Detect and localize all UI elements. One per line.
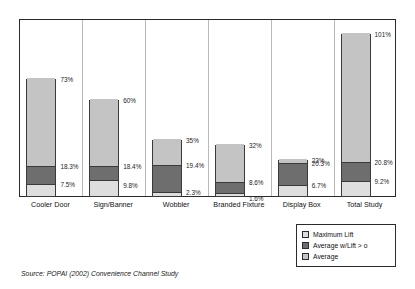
plot-area: 73%18.3%7.5%60%18.4%9.8%35%19.4%2.3%32%8… xyxy=(19,19,396,197)
bar-segment-average xyxy=(27,184,55,196)
bar-segment-maximum-lift xyxy=(27,78,55,167)
bar-value-label-average: 7.5% xyxy=(60,181,75,188)
bar-value-label-average: 9.8% xyxy=(123,182,138,189)
x-axis-tick-label: Total Study xyxy=(333,200,396,210)
x-axis-labels: Cooler DoorSign/BannerWobblerBranded Fix… xyxy=(19,200,396,216)
legend-item-average: Average xyxy=(302,251,390,262)
x-axis-tick-label: Branded Fixture xyxy=(208,200,271,210)
bar-value-label-average: 9.2% xyxy=(375,178,390,185)
legend-swatch-icon xyxy=(302,231,309,238)
x-axis-tick-label: Display Box xyxy=(270,200,333,210)
bar-segment-average-w-lift xyxy=(342,162,370,181)
bar-group: 23%20.3%6.7% xyxy=(270,19,333,197)
chart-figure: 73%18.3%7.5%60%18.4%9.8%35%19.4%2.3%32%8… xyxy=(0,0,415,289)
bar-value-label-maximum-lift: 60% xyxy=(123,97,136,104)
bar-value-label-average-w-lift: 20.3% xyxy=(312,160,330,167)
bar-segment-average xyxy=(216,193,244,196)
legend-label: Average w/Lift > o xyxy=(313,241,367,250)
legend-label: Average xyxy=(313,252,338,261)
chart-legend: Maximum Lift Average w/Lift > o Average xyxy=(296,224,396,267)
bar-segment-maximum-lift xyxy=(342,33,370,163)
source-caption: Source: POPAI (2002) Convenience Channel… xyxy=(21,270,178,277)
bar xyxy=(215,145,245,197)
bar xyxy=(152,140,182,197)
bar-segment-average-w-lift xyxy=(90,166,118,180)
legend-item-maximum-lift: Maximum Lift xyxy=(302,229,390,240)
bar-value-label-average: 2.3% xyxy=(186,189,201,196)
legend-swatch-icon xyxy=(302,242,309,249)
bar-value-label-average-w-lift: 20.8% xyxy=(375,159,393,166)
bar-group: 32%8.6%1.6% xyxy=(208,19,271,197)
x-axis-tick-label: Sign/Banner xyxy=(82,200,145,210)
bar-segment-average-w-lift xyxy=(216,182,244,193)
bar-segment-average-w-lift xyxy=(153,165,181,193)
bar xyxy=(89,100,119,197)
bar-segment-average xyxy=(153,192,181,196)
legend-swatch-icon xyxy=(302,253,309,260)
bar-value-label-average-w-lift: 8.6% xyxy=(249,179,264,186)
bar-segment-average xyxy=(90,180,118,196)
bar-segment-average-w-lift xyxy=(279,163,307,185)
bar-segment-average xyxy=(279,185,307,196)
bar-value-label-average: 6.7% xyxy=(312,182,327,189)
bar-segment-maximum-lift xyxy=(90,99,118,166)
legend-label: Maximum Lift xyxy=(313,230,353,239)
bar-value-label-maximum-lift: 32% xyxy=(249,142,262,149)
bar-value-label-average-w-lift: 18.3% xyxy=(60,163,78,170)
bar-segment-average xyxy=(342,181,370,196)
bar-segment-average-w-lift xyxy=(27,166,55,183)
bar-group: 73%18.3%7.5% xyxy=(19,19,82,197)
bar-group: 101%20.8%9.2% xyxy=(333,19,396,197)
bar-segment-maximum-lift xyxy=(216,144,244,182)
bar-group: 35%19.4%2.3% xyxy=(145,19,208,197)
bar xyxy=(26,79,56,197)
bar-value-label-maximum-lift: 73% xyxy=(60,76,73,83)
bar-value-label-average-w-lift: 19.4% xyxy=(186,162,204,169)
x-axis-tick-label: Wobbler xyxy=(145,200,208,210)
x-axis-tick-label: Cooler Door xyxy=(19,200,82,210)
bar-value-label-average-w-lift: 18.4% xyxy=(123,163,141,170)
bar xyxy=(278,160,308,197)
legend-item-average-w-lift: Average w/Lift > o xyxy=(302,240,390,251)
bar-value-label-maximum-lift: 35% xyxy=(186,137,199,144)
bar xyxy=(341,34,371,197)
bar-value-label-maximum-lift: 101% xyxy=(375,31,391,38)
bar-group: 60%18.4%9.8% xyxy=(82,19,145,197)
bar-segment-maximum-lift xyxy=(153,139,181,164)
